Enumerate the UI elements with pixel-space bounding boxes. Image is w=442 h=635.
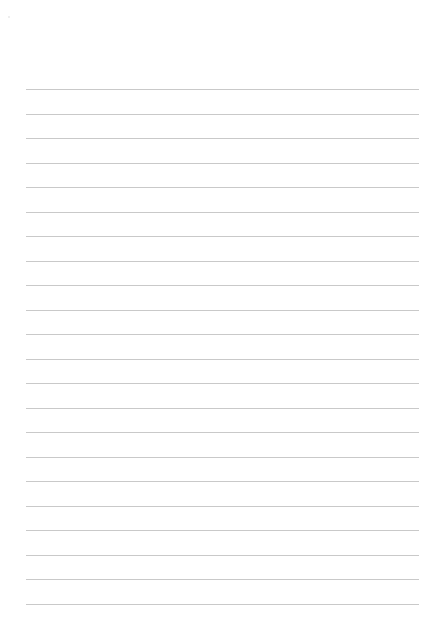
ruled-line [26,212,419,213]
ruled-line [26,432,419,433]
ruled-line [26,481,419,482]
ruled-line [26,579,419,580]
ruled-line [26,261,419,262]
ruled-line [26,236,419,237]
ruled-line [26,310,419,311]
ruled-line [26,114,419,115]
ruled-line [26,506,419,507]
ruled-line [26,163,419,164]
ruled-line [26,457,419,458]
ruled-line [26,187,419,188]
ruled-line [26,383,419,384]
ruled-line [26,530,419,531]
ruled-line [26,359,419,360]
lined-paper-page [0,0,442,635]
scan-speck [8,16,10,18]
ruled-line [26,138,419,139]
ruled-line [26,334,419,335]
ruled-line [26,89,419,90]
ruled-line [26,408,419,409]
ruled-line [26,604,419,605]
ruled-line [26,285,419,286]
ruled-line [26,555,419,556]
